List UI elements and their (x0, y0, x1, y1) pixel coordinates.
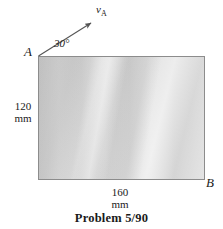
dimension-height-unit: mm (8, 113, 38, 125)
dimension-height-value: 120 (15, 100, 32, 112)
corner-label-b: B (206, 176, 214, 190)
dimension-width-unit: mm (100, 199, 140, 211)
figure-container: A B 30° vA 120 mm 160 mm Problem 5/90 (0, 0, 223, 229)
angle-label: 30° (54, 38, 69, 50)
dimension-width: 160 mm (100, 187, 140, 210)
dimension-width-value: 160 (112, 186, 129, 198)
velocity-subscript: A (101, 9, 107, 18)
velocity-label: vA (96, 4, 107, 19)
figure-caption: Problem 5/90 (0, 211, 223, 226)
corner-label-a: A (24, 45, 32, 59)
dimension-height: 120 mm (8, 101, 38, 124)
